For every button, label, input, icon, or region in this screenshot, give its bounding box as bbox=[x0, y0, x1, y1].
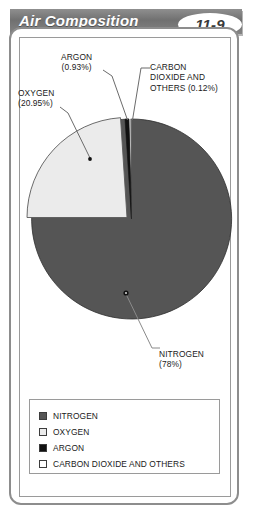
legend-item-carbon-dioxide: CARBON DIOXIDE AND OTHERS bbox=[39, 456, 185, 472]
legend-label-oxygen: OXYGEN bbox=[53, 427, 89, 437]
legend-item-nitrogen: NITROGEN bbox=[39, 408, 185, 424]
legend-swatch-nitrogen bbox=[39, 412, 47, 420]
legend-label-argon: ARGON bbox=[53, 443, 84, 453]
legend-swatch-oxygen bbox=[39, 428, 47, 436]
legend-item-oxygen: OXYGEN bbox=[39, 424, 185, 440]
label-oxygen: OXYGEN (20.95%) bbox=[18, 88, 54, 109]
legend-swatch-argon bbox=[39, 444, 47, 452]
legend-label-carbon-dioxide: CARBON DIOXIDE AND OTHERS bbox=[53, 459, 185, 469]
legend-swatch-carbon-dioxide bbox=[39, 460, 47, 468]
legend-box: NITROGEN OXYGEN ARGON CARBON DIOXIDE AND… bbox=[29, 399, 220, 474]
label-carbon-dioxide: CARBON DIOXIDE AND OTHERS (0.12%) bbox=[150, 62, 218, 93]
legend-label-nitrogen: NITROGEN bbox=[53, 411, 98, 421]
legend-item-argon: ARGON bbox=[39, 440, 185, 456]
label-nitrogen: NITROGEN (78%) bbox=[159, 349, 204, 370]
label-argon: ARGON (0.93%) bbox=[61, 52, 92, 73]
legend-list: NITROGEN OXYGEN ARGON CARBON DIOXIDE AND… bbox=[39, 408, 185, 472]
